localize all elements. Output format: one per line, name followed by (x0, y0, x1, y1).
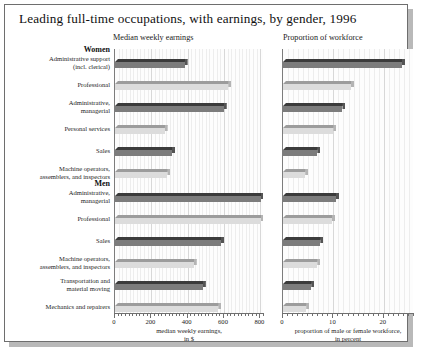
axis-tick-minor (248, 313, 249, 316)
bar (115, 147, 175, 156)
bar-side-face (172, 147, 175, 153)
axis-tick-minor (413, 313, 414, 316)
axis-tick-label: 20 (379, 318, 386, 325)
axis-tick-minor (234, 313, 235, 316)
category-label-line-1: Administrative, (6, 189, 110, 197)
category-label: Sales (6, 237, 110, 245)
bar-front-face (283, 128, 333, 134)
category-label-line-1: Administrative, (6, 99, 110, 107)
bar-front-face (283, 150, 317, 156)
bar (283, 303, 309, 312)
bar-side-face (333, 125, 336, 131)
axis-tick-minor (176, 313, 177, 316)
bar-side-face (332, 215, 335, 221)
axis-tick-minor (129, 313, 130, 316)
bar-front-face (115, 240, 221, 246)
bar-side-face (320, 237, 323, 243)
bar-front-face (115, 306, 218, 312)
gridline-minor (242, 49, 243, 313)
category-label: Machine operators,assemblers, and inspec… (6, 165, 110, 180)
bar-front-face (283, 240, 320, 246)
x-axis-title-earnings: median weekly earnings, in $ (114, 327, 264, 343)
gridline-minor (389, 49, 390, 313)
axis-tick-minor (263, 313, 264, 316)
bar-front-face (115, 150, 172, 156)
bar-side-face (218, 303, 221, 309)
bar-front-face (115, 106, 224, 112)
axis-tick-minor (194, 313, 195, 316)
plot-area-proportion (282, 49, 413, 313)
category-label: Administrative support(incl. clerical) (6, 55, 110, 70)
axis-tick-minor (201, 313, 202, 316)
group-heading-women: Women (6, 45, 110, 54)
axis-tick-minor (252, 313, 253, 316)
chart-figure: Leading full-time occupations, with earn… (4, 4, 408, 342)
axis-title-line-1: median weekly earnings, (114, 327, 264, 335)
axis-tick-minor (348, 313, 349, 316)
gridline-minor (409, 49, 410, 313)
axis-tick-minor (388, 313, 389, 316)
gridline-major (260, 49, 261, 313)
axis-tick-label: 800 (254, 318, 264, 325)
category-label: Sales (6, 147, 110, 155)
axis-tick-label: 0 (112, 318, 115, 325)
bar-side-face (311, 281, 314, 287)
category-label: Administrative,managerial (6, 189, 110, 204)
axis-tick-minor (337, 313, 338, 316)
axis-tick-minor (363, 313, 364, 316)
axis-tick-minor (169, 313, 170, 316)
category-label-line-1: Professional (6, 215, 110, 223)
bar (115, 59, 188, 68)
axis-tick-minor (292, 313, 293, 316)
axis-tick-minor (302, 313, 303, 316)
axis-tick-minor (393, 313, 394, 316)
category-label-line-1: Machine operators, (6, 165, 110, 173)
panel-title-right: Proportion of workforce (283, 33, 363, 42)
axis-tick-minor (139, 313, 140, 316)
bar (115, 237, 224, 246)
bar (115, 215, 263, 224)
axis-tick-label: 0 (280, 318, 283, 325)
axis-tick-minor (403, 313, 404, 316)
bar-side-face (261, 193, 263, 199)
axis-tick-minor (398, 313, 399, 316)
bar-side-face (167, 169, 170, 175)
bar (283, 215, 335, 224)
gridline-minor (364, 49, 365, 313)
bar-front-face (283, 196, 336, 202)
bar-side-face (342, 103, 345, 109)
bar-side-face (221, 237, 224, 243)
category-label-line-2: managerial (6, 107, 110, 115)
bar (115, 281, 206, 290)
x-axis-title-proportion: proportion of male or female workforce, … (267, 327, 427, 343)
axis-tick-minor (161, 313, 162, 316)
axis-tick-label: 10 (329, 318, 336, 325)
axis-tick-minor (358, 313, 359, 316)
bar-side-face (402, 59, 405, 65)
bar (283, 259, 320, 268)
bar (283, 237, 323, 246)
gridline-minor (231, 49, 232, 313)
axis-tick-minor (327, 313, 328, 316)
category-label: Professional (6, 81, 110, 89)
bar-front-face (115, 284, 203, 290)
bar-front-face (115, 84, 228, 90)
bar (115, 103, 227, 112)
axis-tick-minor (322, 313, 323, 316)
axis-tick-minor (198, 313, 199, 316)
gridline-minor (235, 49, 236, 313)
bar-front-face (115, 128, 165, 134)
bar-front-face (283, 172, 305, 178)
gridline-minor (249, 49, 250, 313)
axis-tick-minor (408, 313, 409, 316)
axis-tick-minor (205, 313, 206, 316)
category-label: Machine operators,assemblers, and inspec… (6, 255, 110, 270)
bar-front-face (115, 172, 167, 178)
plot-area-earnings (114, 49, 263, 313)
bar-front-face (283, 84, 351, 90)
bar-front-face (283, 306, 306, 312)
bar-side-face (194, 259, 197, 265)
bar-front-face (115, 196, 261, 202)
bar (283, 103, 345, 112)
category-label-line-1: Mechanics and repairers (6, 303, 110, 311)
